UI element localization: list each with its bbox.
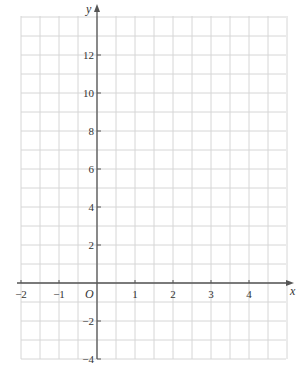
x-tick-label: 2 xyxy=(170,288,176,300)
x-tick-label: 4 xyxy=(246,288,252,300)
y-tick-label: 10 xyxy=(83,87,95,99)
x-tick-label: −1 xyxy=(53,288,65,300)
x-tick-label: 1 xyxy=(132,288,138,300)
y-tick-label: 8 xyxy=(89,125,95,137)
grid-lines xyxy=(21,16,287,359)
x-axis-label: x xyxy=(289,284,296,298)
y-tick-label: 2 xyxy=(89,239,95,251)
x-tick-label: −2 xyxy=(15,288,27,300)
coordinate-grid: −2−11234 −4−224681012 x y O xyxy=(0,0,307,388)
x-tick-label: 3 xyxy=(208,288,214,300)
y-tick-label: 6 xyxy=(89,163,95,175)
y-tick-label: 4 xyxy=(89,201,95,213)
y-tick-label: −4 xyxy=(82,353,94,365)
origin-label: O xyxy=(85,287,94,301)
y-axis-label: y xyxy=(85,2,92,16)
y-tick-label: −2 xyxy=(82,315,94,327)
y-tick-label: 12 xyxy=(83,49,94,61)
